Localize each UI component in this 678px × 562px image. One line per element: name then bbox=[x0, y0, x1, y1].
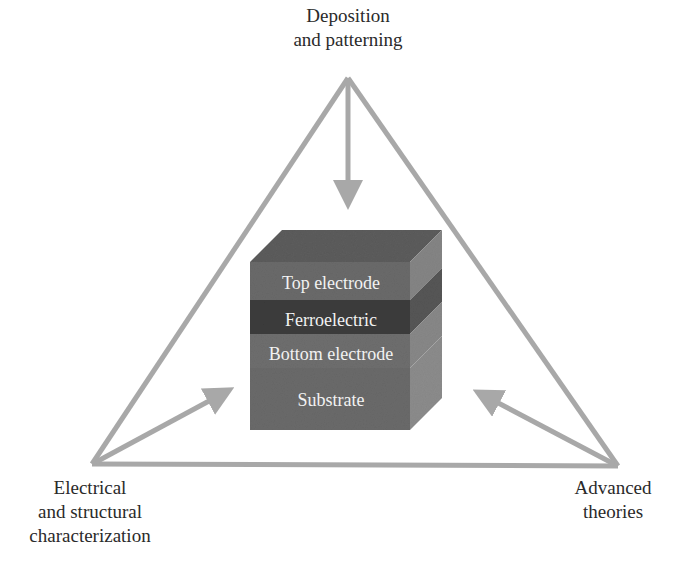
vertex-label-theories: Advanced theories bbox=[548, 476, 678, 524]
vertex-label-deposition: Deposition and patterning bbox=[248, 4, 448, 52]
vertex-label-line: Deposition bbox=[248, 4, 448, 28]
layer-label-ferroelectric: Ferroelectric bbox=[246, 310, 416, 331]
triangle-edge-bottom bbox=[92, 464, 618, 466]
vertex-label-line: characterization bbox=[0, 524, 180, 548]
vertex-label-line: Advanced bbox=[548, 476, 678, 500]
vertex-label-line: Electrical bbox=[0, 476, 180, 500]
layer-label-bottom-electrode: Bottom electrode bbox=[246, 344, 416, 365]
vertex-label-characterization: Electrical and structural characterizati… bbox=[0, 476, 180, 548]
vertex-label-line: and patterning bbox=[248, 28, 448, 52]
layer-label-top-electrode: Top electrode bbox=[246, 273, 416, 294]
vertex-label-line: and structural bbox=[0, 500, 180, 524]
cube-top-face bbox=[250, 230, 442, 262]
layer-label-substrate: Substrate bbox=[246, 390, 416, 411]
vertex-label-line: theories bbox=[548, 500, 678, 524]
